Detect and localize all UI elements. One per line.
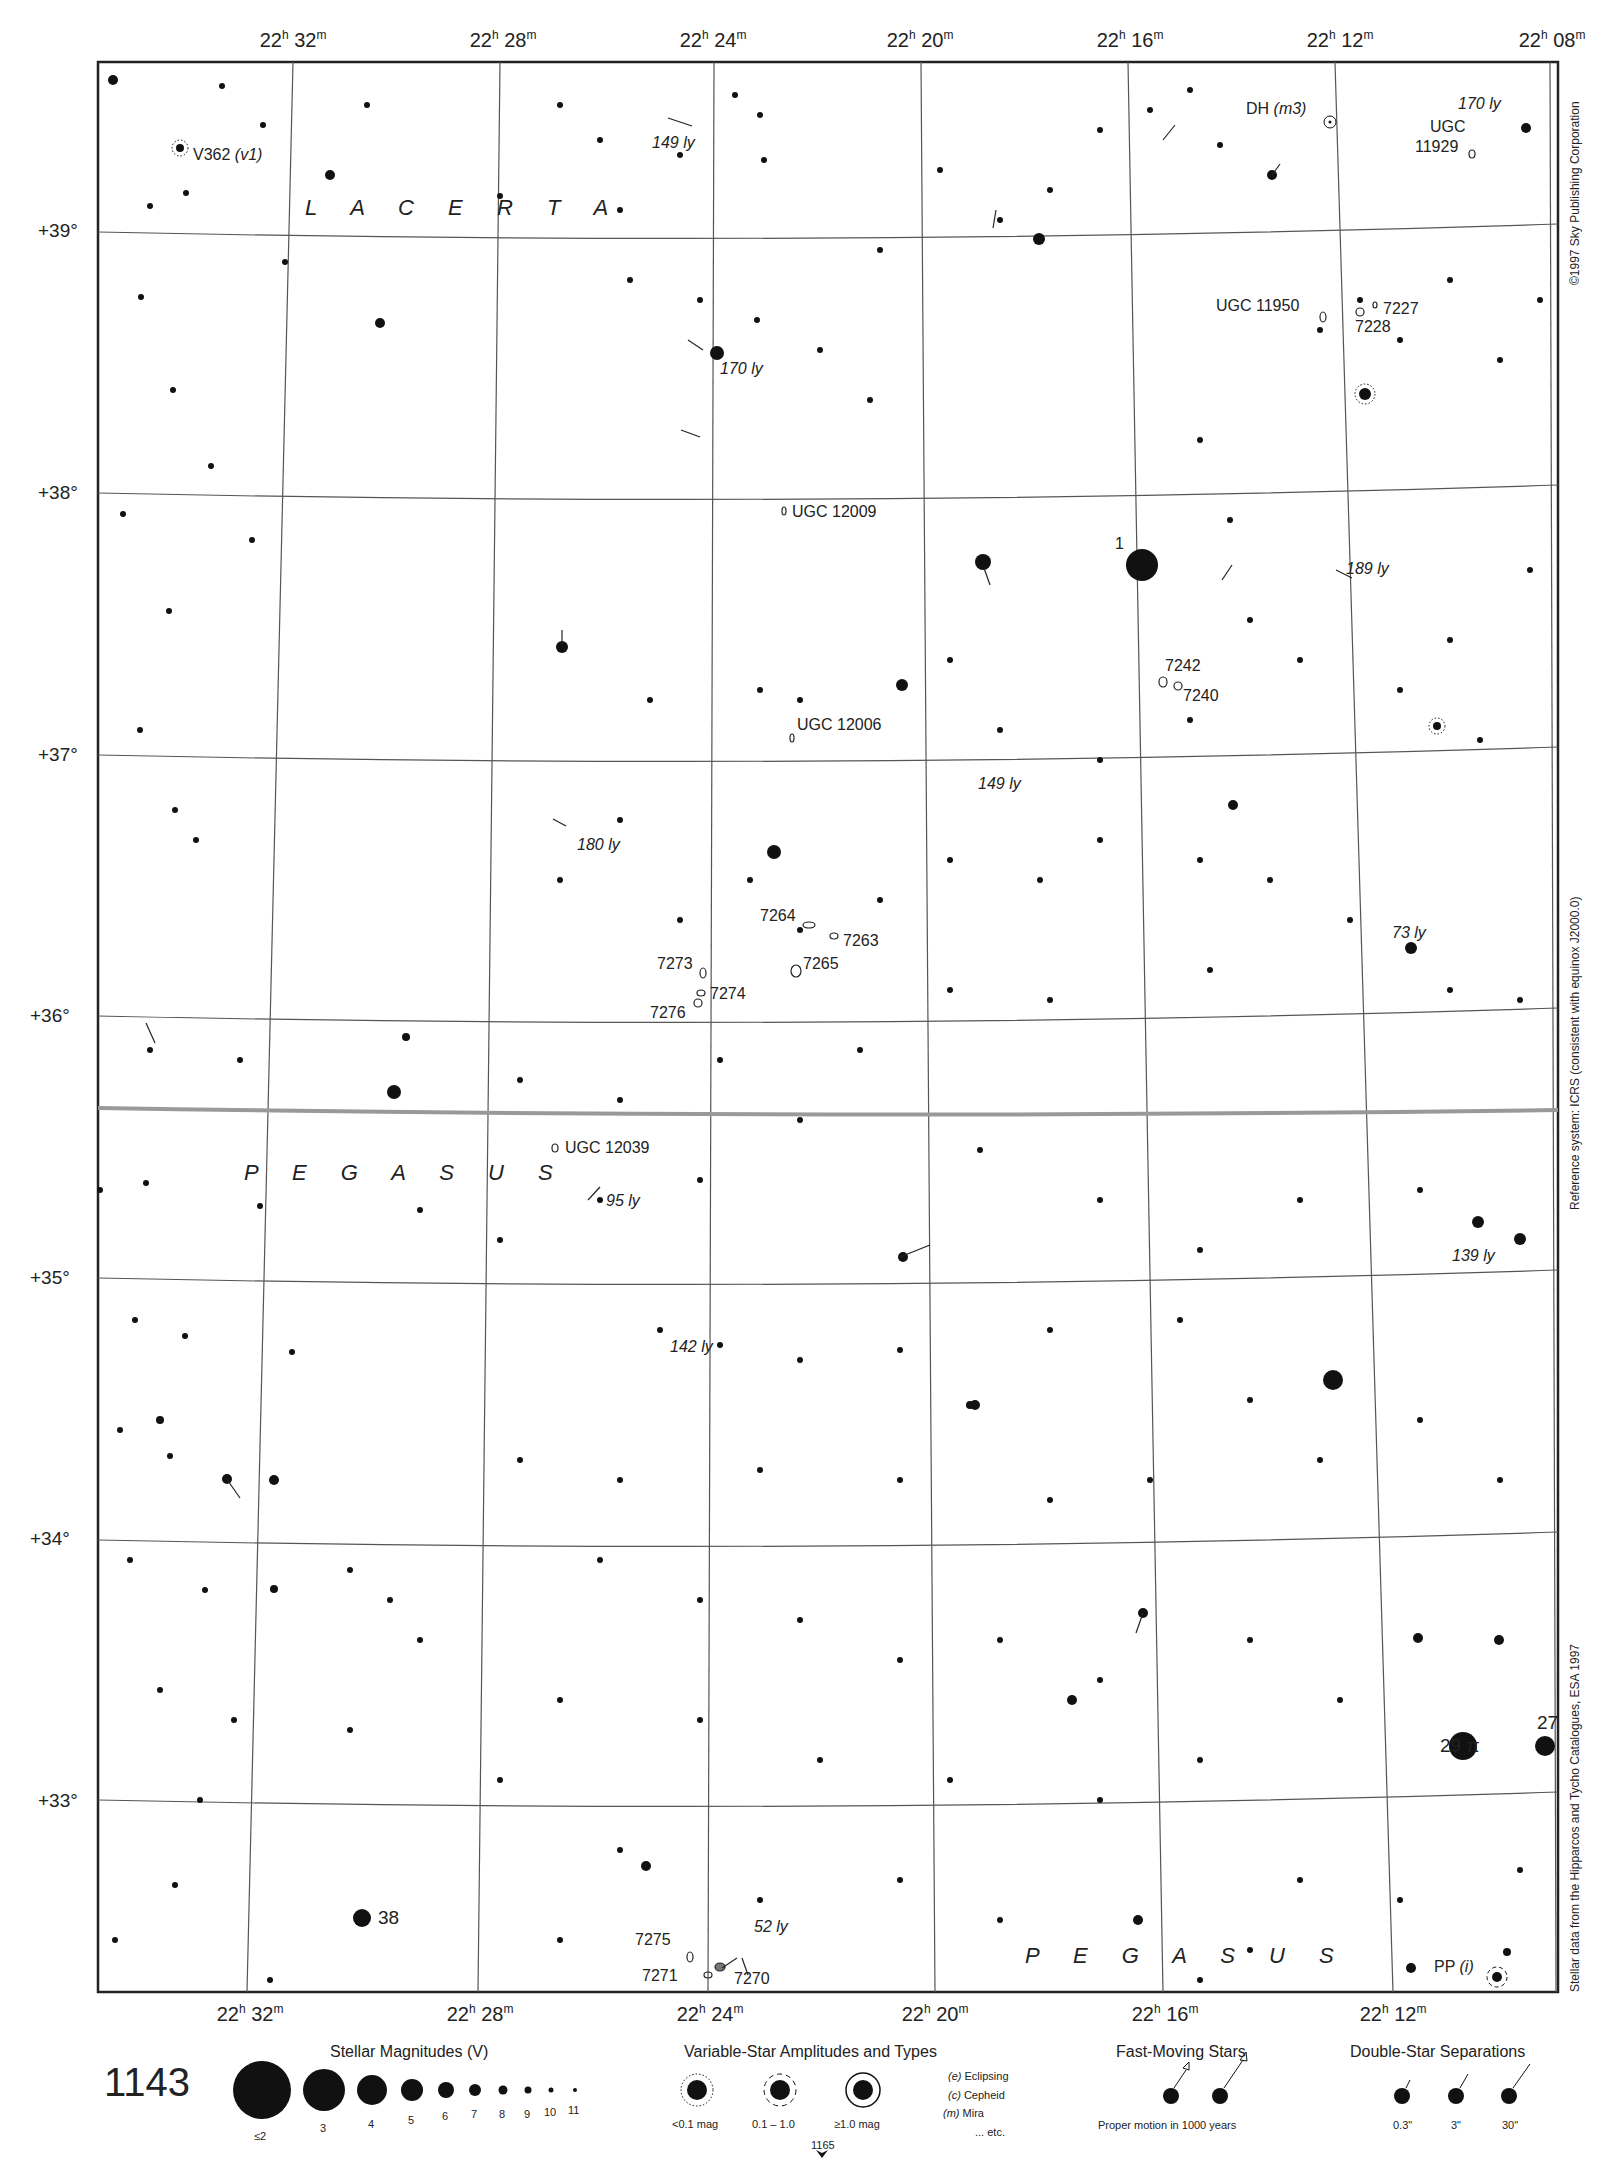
ra-bottom-20: 22h 20m [902,2002,969,2026]
dec-label-36: +36° [30,1005,70,1027]
label-149ly-mid: 149 ly [978,775,1021,793]
label-ngc7242: 7242 [1165,657,1201,675]
adjacent-chart-number[interactable]: 1165 [811,2139,835,2151]
legend-variable-symbols [681,2073,880,2107]
label-ngc7271: 7271 [642,1967,678,1985]
label-149ly-top: 149 ly [652,134,695,152]
label-ugc12006: UGC 12006 [797,716,882,734]
ra-top-16: 22h 16m [1097,28,1164,52]
label-dh: DH (m3) [1246,100,1306,118]
variable-amp-high: ≥1.0 mag [834,2118,880,2130]
label-ugc11950: UGC 11950 [1216,297,1299,315]
variable-amp-mid: 0.1 – 1.0 [752,2118,795,2130]
label-142ly: 142 ly [670,1338,713,1356]
mag-label-10: 10 [544,2106,556,2118]
mag-label-4: 4 [368,2118,374,2130]
ra-bottom-16: 22h 16m [1132,2002,1199,2026]
ra-bottom-28: 22h 28m [447,2002,514,2026]
label-ngc7275: 7275 [635,1931,671,1949]
double-sep-30: 30" [1502,2119,1518,2131]
mag-label-6: 6 [442,2110,448,2122]
dec-label-34: +34° [30,1528,70,1550]
label-ngc7228: 7228 [1355,318,1391,336]
variable-stars [172,116,1507,1987]
label-ngc7264: 7264 [760,907,796,925]
constellation-pegasus: P E G A S U S [244,1160,567,1186]
dec-label-37: +37° [38,744,78,766]
label-180ly: 180 ly [577,836,620,854]
variable-type-eclipsing: (e) Eclipsing [948,2070,1009,2082]
ra-top-24: 22h 24m [680,28,747,52]
label-ugc12039: UGC 12039 [565,1139,650,1157]
ra-top-12: 22h 12m [1307,28,1374,52]
ra-top-20: 22h 20m [887,28,954,52]
label-ngc7276: 7276 [650,1004,686,1022]
label-pp: PP (i) [1434,1958,1474,1976]
legend-fast-moving-title: Fast-Moving Stars [1116,2043,1246,2061]
dec-label-33: +33° [38,1790,78,1812]
label-ngc7227: 7227 [1383,300,1419,318]
label-170ly-mid: 170 ly [720,360,763,378]
label-95ly: 95 ly [606,1192,640,1210]
label-ngc7270: 7270 [734,1970,770,1988]
legend-fast-moving-caption: Proper motion in 1000 years [1098,2119,1236,2131]
legend-double-star-title: Double-Star Separations [1350,2043,1525,2061]
galaxies [552,150,1475,1978]
mag-label-5: 5 [408,2114,414,2126]
label-189ly: 189 ly [1346,560,1389,578]
label-73ly: 73 ly [1392,924,1426,942]
label-ugc12009: UGC 12009 [792,503,877,521]
mag-label-3: 3 [320,2122,326,2134]
label-ngc7274: 7274 [710,985,746,1003]
variable-type-etc: ... etc. [975,2126,1005,2138]
arrow-down-icon [816,2150,828,2158]
stellar-data-source-text: Stellar data from the Hipparcos and Tych… [1568,1644,1582,1992]
double-sep-0-3: 0.3" [1393,2119,1412,2131]
mag-label-11: 11 [568,2104,579,2116]
motion-vectors [146,118,1352,1975]
label-139ly: 139 ly [1452,1247,1495,1265]
ra-bottom-24: 22h 24m [677,2002,744,2026]
dec-grid [98,224,1558,1806]
constellation-pegasus-bottom: P E G A S U S [1025,1943,1348,1969]
chart-number: 1143 [104,2060,190,2105]
label-ngc7265: 7265 [803,955,839,973]
legend-double-star-symbols [1394,2064,1530,2104]
mag-label-9: 9 [524,2108,530,2120]
label-ngc7273: 7273 [657,955,693,973]
ra-top-08: 22h 08m [1519,28,1586,52]
label-27: 27 [1537,1712,1558,1734]
copyright-text: ©1997 Sky Publishing Corporation [1568,101,1582,285]
ra-top-32: 22h 32m [260,28,327,52]
label-38: 38 [378,1907,399,1929]
variable-amp-low: <0.1 mag [672,2118,718,2130]
label-ugc11929-b: 11929 [1415,138,1458,156]
mag-label-2: ≤2 [254,2130,266,2142]
double-sep-3: 3" [1451,2119,1461,2131]
constellation-lacerta: L A C E R T A [305,195,622,221]
dec-label-35: +35° [30,1267,70,1289]
dec-label-39: +39° [38,220,78,242]
dec-label-38: +38° [38,482,78,504]
ra-bottom-12: 22h 12m [1360,2002,1427,2026]
label-52ly: 52 ly [754,1918,788,1936]
mag-label-7: 7 [471,2108,477,2120]
label-ngc7240: 7240 [1183,687,1219,705]
legend-magnitudes-title: Stellar Magnitudes (V) [330,2043,488,2061]
constellation-boundary [98,1108,1558,1115]
label-star-1: 1 [1115,535,1124,553]
reference-system-text: Reference system: ICRS (consistent with … [1568,897,1582,1210]
ra-top-28: 22h 28m [470,28,537,52]
label-29-pi: 29 π [1440,1735,1480,1757]
legend-variables-title: Variable-Star Amplitudes and Types [684,2043,937,2061]
mag-label-8: 8 [499,2108,505,2120]
label-v362: V362 (v1) [193,146,262,164]
faint-stars [97,83,1543,1983]
ra-grid [247,62,1556,1992]
label-170ly-top: 170 ly [1458,95,1501,113]
label-ugc11929-a: UGC [1430,118,1466,136]
stars [108,75,1555,1973]
variable-type-mira: (m) Mira [943,2107,984,2119]
label-ngc7263: 7263 [843,932,879,950]
ra-bottom-32: 22h 32m [217,2002,284,2026]
